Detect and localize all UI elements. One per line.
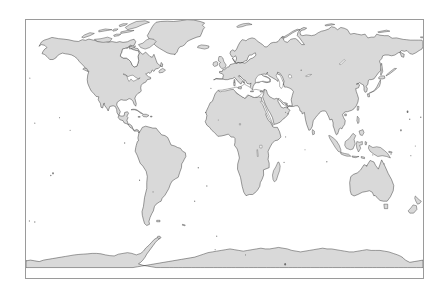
island-halmahera [365, 142, 367, 145]
island-cape-verde-dot [198, 167, 199, 168]
island-easter-dot [104, 103, 105, 104]
island-marquesas-dot [70, 130, 71, 131]
map-plot-frame [25, 19, 424, 279]
island-mauritius-dot [287, 113, 288, 114]
island-azores-dot [194, 200, 195, 201]
island-jan-mayen-dot [215, 249, 216, 250]
island-canary-dot [206, 185, 207, 186]
island-corsica [234, 80, 235, 82]
island-cyprus [260, 91, 262, 92]
lake-chad [239, 124, 240, 125]
world-map-figure [0, 0, 448, 295]
island-sicily [238, 87, 241, 89]
island-franz-josef-dot [284, 263, 286, 265]
island-faroe-dot [216, 236, 217, 237]
island-bear-dot [245, 254, 246, 255]
island-japan-kyushu [367, 94, 369, 97]
island-maldives-dot [305, 149, 306, 150]
island-caroline-dot [391, 154, 392, 155]
island-reunion-dot [285, 112, 286, 113]
island-kiribati-dot [415, 145, 416, 146]
island-bahamas-dot [139, 180, 140, 181]
island-palau-dot [372, 154, 373, 155]
island-jamaica [138, 116, 140, 117]
island-hawaii-dot [52, 172, 54, 174]
island-tahiti-dot [59, 117, 60, 118]
island-kerguelen-dot [301, 70, 302, 71]
island-samoa-dot [34, 123, 35, 124]
island-comoros-dot [272, 125, 273, 126]
island-sardinia [234, 82, 236, 85]
island-ireland [213, 61, 218, 66]
island-seychelles-dot [285, 136, 286, 137]
island-bermuda-dot [153, 191, 154, 192]
island-vanuatu-dot [409, 118, 410, 119]
island-chatham-dot [29, 78, 30, 79]
island-crete [251, 91, 254, 92]
world-map-svg [26, 20, 423, 278]
island-aleutian-dot-1 [34, 221, 35, 222]
island-hawaii-dot-2 [50, 175, 51, 177]
island-st-helena-dot [218, 119, 219, 120]
island-fiji-dot [420, 116, 421, 118]
island-galapagos-dot [124, 142, 125, 143]
island-taiwan [357, 106, 359, 110]
lake-victoria [260, 145, 262, 148]
island-marshall-dot [410, 155, 411, 156]
island-puerto-rico [150, 116, 152, 117]
island-hainan [345, 114, 347, 116]
island-tristan-dot [210, 88, 211, 89]
island-solomon-dot [400, 129, 402, 131]
island-socotra-dot [284, 162, 285, 163]
island-guam-dot [384, 163, 385, 164]
island-new-caledonia-dot [407, 111, 409, 113]
island-aleutian-dot-2 [29, 220, 30, 221]
island-andaman-dot [326, 161, 327, 162]
island-tasmania [384, 204, 388, 208]
island-falklands [157, 220, 160, 221]
